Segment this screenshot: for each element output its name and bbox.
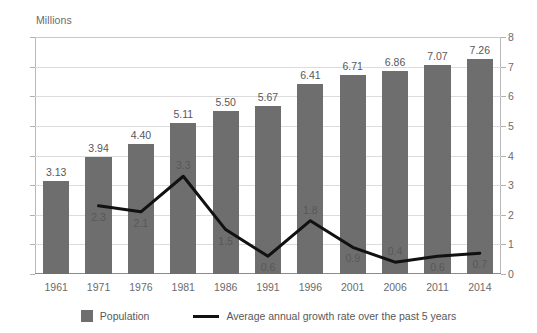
y-tick-right-0: 0 bbox=[508, 269, 532, 280]
bar-value-label-2011: 7.07 bbox=[416, 51, 458, 62]
y-tick-right-1: 1 bbox=[508, 239, 532, 250]
legend-label-population: Population bbox=[100, 310, 150, 322]
x-label-1976[interactable]: 1976 bbox=[120, 282, 162, 293]
line-swatch-icon bbox=[193, 315, 219, 318]
y-tick-right-3: 3 bbox=[508, 180, 532, 191]
y-tickmark-right-6 bbox=[501, 96, 506, 97]
legend-label-growth-rate: Average annual growth rate over the past… bbox=[226, 310, 456, 322]
growth-value-label-1976: 2.1 bbox=[120, 218, 162, 229]
x-label-1961[interactable]: 1961 bbox=[35, 282, 77, 293]
growth-value-label-2001: 0.9 bbox=[332, 253, 374, 264]
y-tickmark-right-4 bbox=[501, 156, 506, 157]
x-label-1971[interactable]: 1971 bbox=[77, 282, 119, 293]
line-series-growth-rate bbox=[35, 37, 501, 274]
legend-item-growth-rate[interactable]: Average annual growth rate over the past… bbox=[193, 310, 456, 322]
y-tickmark-right-8 bbox=[501, 37, 506, 38]
bar-value-label-1961: 3.13 bbox=[35, 167, 77, 178]
y-tickmark-right-0 bbox=[501, 274, 506, 275]
y-tick-right-5: 5 bbox=[508, 121, 532, 132]
growth-value-label-1991: 0.6 bbox=[247, 262, 289, 273]
y-tickmark-right-7 bbox=[501, 67, 506, 68]
y-tickmark-right-5 bbox=[501, 126, 506, 127]
y-tickmark-left-2 bbox=[30, 215, 35, 216]
bar-value-label-2006: 6.86 bbox=[374, 57, 416, 68]
y-tickmark-left-0 bbox=[30, 274, 35, 275]
bar-value-label-1986: 5.50 bbox=[204, 97, 246, 108]
x-label-2014[interactable]: 2014 bbox=[459, 282, 501, 293]
x-label-1996[interactable]: 1996 bbox=[289, 282, 331, 293]
x-label-2001[interactable]: 2001 bbox=[332, 282, 374, 293]
y-tick-right-8: 8 bbox=[508, 32, 532, 43]
growth-value-label-1971: 2.3 bbox=[77, 212, 119, 223]
bar-value-label-1976: 4.40 bbox=[120, 130, 162, 141]
y-tickmark-left-1 bbox=[30, 244, 35, 245]
y-tickmark-right-1 bbox=[501, 244, 506, 245]
y-tick-right-6: 6 bbox=[508, 91, 532, 102]
y-tickmark-right-3 bbox=[501, 185, 506, 186]
bar-value-label-1991: 5.67 bbox=[247, 92, 289, 103]
population-growth-chart: Millions 3.133.944.405.115.505.676.416.7… bbox=[0, 0, 537, 333]
y-tick-right-2: 2 bbox=[508, 210, 532, 221]
x-label-1986[interactable]: 1986 bbox=[204, 282, 246, 293]
y-axis-unit-label: Millions bbox=[36, 14, 72, 26]
x-label-2011[interactable]: 2011 bbox=[416, 282, 458, 293]
bar-value-label-1996: 6.41 bbox=[289, 70, 331, 81]
chart-legend: Population Average annual growth rate ov… bbox=[0, 308, 537, 324]
bar-value-label-2014: 7.26 bbox=[459, 45, 501, 56]
y-tick-right-4: 4 bbox=[508, 151, 532, 162]
y-tickmark-left-4 bbox=[30, 156, 35, 157]
bar-value-label-2001: 6.71 bbox=[332, 61, 374, 72]
x-label-1981[interactable]: 1981 bbox=[162, 282, 204, 293]
legend-item-population[interactable]: Population bbox=[81, 310, 150, 322]
y-tickmark-left-7 bbox=[30, 67, 35, 68]
growth-value-label-1986: 1.5 bbox=[204, 236, 246, 247]
bar-value-label-1971: 3.94 bbox=[77, 143, 119, 154]
growth-value-label-1996: 1.8 bbox=[289, 205, 331, 216]
bar-swatch-icon bbox=[81, 310, 93, 322]
y-tickmark-right-2 bbox=[501, 215, 506, 216]
growth-value-label-2006: 0.4 bbox=[374, 246, 416, 257]
x-label-1991[interactable]: 1991 bbox=[247, 282, 289, 293]
growth-value-label-1981: 3.3 bbox=[162, 160, 204, 171]
y-tickmark-left-5 bbox=[30, 126, 35, 127]
growth-value-label-2014: 0.7 bbox=[459, 259, 501, 270]
y-tick-right-7: 7 bbox=[508, 62, 532, 73]
y-tickmark-left-8 bbox=[30, 37, 35, 38]
x-label-2006[interactable]: 2006 bbox=[374, 282, 416, 293]
bar-value-label-1981: 5.11 bbox=[162, 109, 204, 120]
y-tickmark-left-6 bbox=[30, 96, 35, 97]
y-tickmark-left-3 bbox=[30, 185, 35, 186]
growth-value-label-2011: 0.6 bbox=[416, 262, 458, 273]
